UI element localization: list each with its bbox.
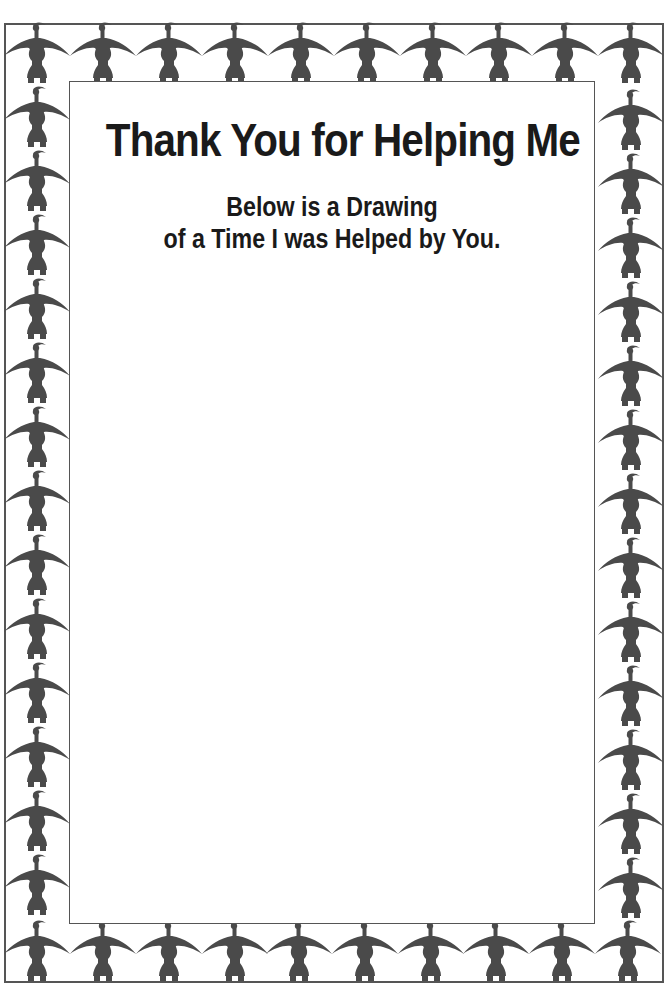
left-border-column [4,86,70,915]
right-border-column [598,89,664,918]
subtitle-line-2: of a Time I was Helped by You. [106,223,558,255]
page-title: Thank You for Helping Me [106,112,558,168]
subtitle-line-1: Below is a Drawing [106,191,558,223]
page-subtitle: Below is a Drawing of a Time I was Helpe… [106,191,558,255]
top-border-row [4,22,664,83]
blank-drawing-area[interactable] [90,270,574,900]
bottom-border-row [4,920,661,981]
